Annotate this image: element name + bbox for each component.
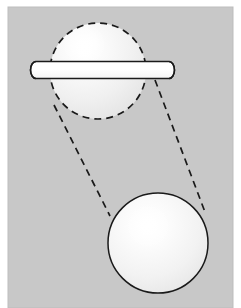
bottom-sphere-highlight (125, 203, 171, 249)
figure-canvas: Sphere translation diagram A shaded gray… (0, 0, 241, 308)
bottom-sphere (108, 193, 208, 293)
figure-root: Sphere translation diagram A shaded gray… (0, 0, 241, 308)
rod-body (31, 62, 175, 79)
rod (31, 62, 175, 79)
